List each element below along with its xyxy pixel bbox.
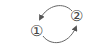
arrow-2-to-1 [40, 6, 72, 19]
node-1: ① [30, 22, 43, 40]
cycle-diagram: ① ② [0, 0, 90, 55]
arrow-1-to-2 [43, 27, 76, 43]
node-2: ② [70, 7, 83, 25]
